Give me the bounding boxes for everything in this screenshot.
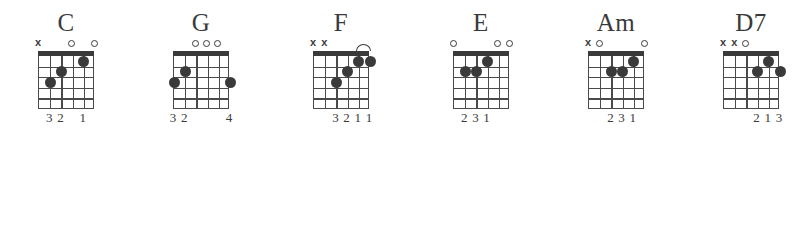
finger-dot-c-string2-fret1 bbox=[78, 56, 89, 67]
string-line-e-3 bbox=[476, 56, 477, 108]
fingering-number-am-string2: 1 bbox=[626, 110, 640, 126]
finger-dot-c-string4-fret2 bbox=[56, 66, 67, 77]
fingering-number-c-string4: 2 bbox=[53, 110, 67, 126]
string-marker-row-c: x bbox=[38, 38, 94, 51]
muted-string-marker-d7-string6: x bbox=[718, 37, 729, 48]
open-string-marker-e-string2 bbox=[494, 40, 501, 47]
chord-diagram-c: Cx321 bbox=[6, 8, 126, 128]
string-line-e-5 bbox=[499, 56, 500, 108]
chord-chart: Cx321G324Fxx3211E231Amx231D7xx213 bbox=[0, 0, 800, 240]
fret-grid-c bbox=[38, 56, 94, 109]
muted-string-marker-c-string6: x bbox=[33, 37, 44, 48]
finger-dot-c-string5-fret3 bbox=[45, 77, 56, 88]
string-marker-row-g bbox=[173, 38, 229, 51]
string-marker-row-f: xx bbox=[313, 38, 369, 51]
string-line-d7-2 bbox=[735, 56, 736, 108]
chord-name-g: G bbox=[141, 8, 261, 38]
string-line-c-3 bbox=[61, 56, 62, 108]
muted-string-marker-am-string6: x bbox=[583, 37, 594, 48]
chord-name-d7: D7 bbox=[691, 8, 800, 38]
chord-diagram-d7: D7xx213 bbox=[691, 8, 800, 128]
finger-dot-f-string2-fret1 bbox=[353, 56, 364, 67]
fret-grid-e bbox=[453, 56, 509, 109]
string-line-g-3 bbox=[196, 56, 197, 108]
open-string-marker-c-string1 bbox=[91, 40, 98, 47]
finger-dot-e-string4-fret2 bbox=[471, 66, 482, 77]
string-marker-row-am: x bbox=[588, 38, 644, 51]
open-string-marker-g-string4 bbox=[192, 40, 199, 47]
finger-dot-am-string2-fret1 bbox=[628, 56, 639, 67]
muted-string-marker-f-string5: x bbox=[319, 37, 330, 48]
finger-dot-f-string1-fret1 bbox=[365, 56, 376, 67]
finger-dot-d7-string1-fret2 bbox=[775, 66, 786, 77]
string-marker-row-e bbox=[453, 38, 509, 51]
fret-grid-f bbox=[313, 56, 369, 109]
finger-dot-am-string3-fret2 bbox=[617, 66, 628, 77]
fret-grid-d7 bbox=[723, 56, 779, 109]
fingering-row-e: 231 bbox=[453, 110, 509, 128]
string-line-c-4 bbox=[73, 56, 74, 108]
string-line-d7-4 bbox=[758, 56, 759, 108]
finger-dot-am-string4-fret2 bbox=[606, 66, 617, 77]
fingering-row-g: 324 bbox=[173, 110, 229, 128]
fingering-number-g-string1: 4 bbox=[222, 110, 236, 126]
fretboard-d7 bbox=[723, 51, 779, 109]
chord-diagram-g: G324 bbox=[141, 8, 261, 128]
string-line-e-2 bbox=[465, 56, 466, 108]
fretboard-am bbox=[588, 51, 644, 109]
fret-grid-g bbox=[173, 56, 229, 109]
string-line-am-2 bbox=[600, 56, 601, 108]
finger-dot-g-string5-fret2 bbox=[180, 66, 191, 77]
open-string-marker-g-string2 bbox=[214, 40, 221, 47]
chord-diagram-f: Fxx3211 bbox=[281, 8, 401, 128]
fretboard-e bbox=[453, 51, 509, 109]
finger-dot-e-string5-fret2 bbox=[460, 66, 471, 77]
string-marker-row-d7: xx bbox=[723, 38, 779, 51]
finger-dot-g-string6-fret3 bbox=[169, 77, 180, 88]
fingering-number-d7-string1: 3 bbox=[772, 110, 786, 126]
fingering-row-am: 231 bbox=[588, 110, 644, 128]
chord-name-f: F bbox=[281, 8, 401, 38]
fingering-number-g-string5: 2 bbox=[177, 110, 191, 126]
chord-name-am: Am bbox=[556, 8, 676, 38]
open-string-marker-e-string1 bbox=[506, 40, 513, 47]
string-line-f-2 bbox=[325, 56, 326, 108]
open-string-marker-g-string3 bbox=[203, 40, 210, 47]
muted-string-marker-f-string6: x bbox=[308, 37, 319, 48]
chord-name-c: C bbox=[6, 8, 126, 38]
chord-name-e: E bbox=[421, 8, 541, 38]
finger-dot-e-string3-fret1 bbox=[482, 56, 493, 67]
chord-diagram-am: Amx231 bbox=[556, 8, 676, 128]
fretboard-g bbox=[173, 51, 229, 109]
open-string-marker-c-string3 bbox=[68, 40, 75, 47]
fingering-row-c: 321 bbox=[38, 110, 94, 128]
fingering-row-f: 3211 bbox=[313, 110, 369, 128]
string-line-d7-3 bbox=[746, 56, 747, 108]
barre-arc-f bbox=[356, 44, 371, 51]
string-line-am-3 bbox=[611, 56, 612, 108]
fret-grid-am bbox=[588, 56, 644, 109]
fingering-number-e-string3: 1 bbox=[480, 110, 494, 126]
muted-string-marker-d7-string5: x bbox=[729, 37, 740, 48]
open-string-marker-e-string6 bbox=[450, 40, 457, 47]
finger-dot-d7-string2-fret1 bbox=[763, 56, 774, 67]
fretboard-f bbox=[313, 51, 369, 109]
string-line-g-4 bbox=[208, 56, 209, 108]
fretboard-c bbox=[38, 51, 94, 109]
open-string-marker-am-string5 bbox=[596, 40, 603, 47]
finger-dot-f-string3-fret2 bbox=[342, 66, 353, 77]
string-line-f-4 bbox=[348, 56, 349, 108]
finger-dot-f-string4-fret3 bbox=[331, 77, 342, 88]
open-string-marker-d7-string4 bbox=[742, 40, 749, 47]
finger-dot-d7-string3-fret2 bbox=[752, 66, 763, 77]
fingering-number-c-string2: 1 bbox=[76, 110, 90, 126]
chord-diagram-e: E231 bbox=[421, 8, 541, 128]
fingering-number-f-string1: 1 bbox=[362, 110, 376, 126]
fingering-row-d7: 213 bbox=[723, 110, 779, 128]
open-string-marker-am-string1 bbox=[641, 40, 648, 47]
string-line-am-4 bbox=[623, 56, 624, 108]
string-line-g-5 bbox=[219, 56, 220, 108]
string-line-g-2 bbox=[185, 56, 186, 108]
finger-dot-g-string1-fret3 bbox=[225, 77, 236, 88]
